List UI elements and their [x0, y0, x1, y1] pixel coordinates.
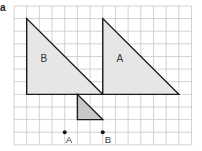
- point-b-label: B: [105, 134, 111, 145]
- point-a-label: A: [66, 134, 73, 145]
- grid-canvas: BA AB: [0, 0, 202, 151]
- panel-label: a: [0, 3, 6, 13]
- triangle-a-label: A: [117, 53, 124, 64]
- triangle-b-label: B: [40, 53, 47, 64]
- geometry-figure: a BA AB: [0, 0, 202, 151]
